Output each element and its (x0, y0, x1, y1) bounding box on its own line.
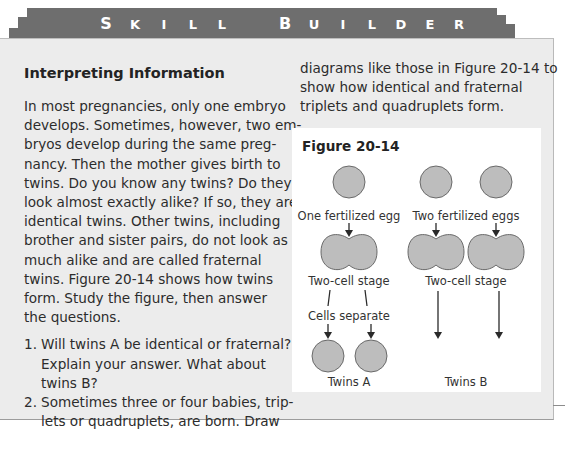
question-list: 1. Will twins A be identical or fraterna… (24, 335, 290, 431)
arrowhead (434, 332, 442, 339)
arrowhead (495, 332, 503, 339)
text-line: much alike and are called fraternal (24, 251, 290, 270)
banner-letter: D (387, 17, 416, 32)
text-line: look almost exactly alike? If so, they a… (24, 193, 290, 212)
label-two-cell-stage-b: Two-cell stage (424, 274, 506, 288)
text-line: diagrams like those in Figure 20-14 to (300, 59, 550, 78)
banner-letter: R (445, 17, 474, 32)
label-one-fertilized-egg: One fertilized egg (298, 209, 401, 223)
section-heading: Interpreting Information (24, 64, 290, 82)
text-line: show how identical and fraternal (300, 78, 550, 97)
question-number: 2. (24, 393, 41, 431)
fertilized-egg-a (333, 166, 365, 198)
text-line: Will twins A be identical or fraternal? (41, 335, 291, 354)
text-line: develops. Sometimes, however, two em- (24, 116, 290, 135)
arrowhead (432, 230, 440, 237)
label-two-cell-stage-a: Two-cell stage (307, 274, 389, 288)
figure-20-14: Figure 20-14 One fertilized egg Two-cell… (292, 128, 541, 392)
text-line: triplets and quadruplets form. (300, 97, 550, 116)
banner-letter: K (121, 17, 150, 32)
left-column: Interpreting Information In most pregnan… (24, 64, 290, 431)
banner-word-builder: B U I L D E R (271, 14, 474, 33)
arrowhead (345, 230, 353, 237)
twin-a-cell-1 (312, 340, 344, 372)
text-line: twins. Figure 20-14 shows how twins (24, 270, 290, 289)
text-line: brother and sister pairs, do not look as (24, 231, 290, 250)
banner-letter: I (329, 17, 358, 32)
text-line: Explain your answer. What about (41, 355, 291, 374)
text-line: form. Study the figure, then answer (24, 289, 290, 308)
banner-letter: L (358, 17, 387, 32)
right-column: diagrams like those in Figure 20-14 to s… (300, 59, 550, 117)
text-line: the questions. (24, 308, 290, 327)
text-line: nancy. Then the mother gives birth to (24, 155, 290, 174)
line (328, 290, 330, 306)
two-cell-stage-b2 (468, 235, 524, 270)
question-text: Will twins A be identical or fraternal? … (41, 335, 291, 393)
two-cell-stage-b1 (408, 235, 464, 270)
text-line: twins B? (41, 374, 291, 393)
arrowhead (367, 332, 375, 339)
text-line: In most pregnancies, only one embryo (24, 97, 290, 116)
line (365, 290, 367, 306)
banner-title: S K I L L B U I L D E R (0, 8, 565, 38)
text-line: bryos develop during the same preg- (24, 135, 290, 154)
question-text: Sometimes three or four babies, trip- le… (41, 393, 294, 431)
text-line: Sometimes three or four babies, trip- (41, 393, 294, 412)
label-cells-separate: Cells separate (308, 309, 390, 323)
intro-paragraph: In most pregnancies, only one embryo dev… (24, 97, 290, 327)
text-line: identical twins. Other twins, including (24, 212, 290, 231)
arrowhead (324, 332, 332, 339)
question-item-1: 1. Will twins A be identical or fraterna… (24, 335, 290, 393)
twin-a-cell-2 (355, 340, 387, 372)
question-number: 1. (24, 335, 41, 393)
text-line: lets or quadruplets, are born. Draw (41, 412, 294, 431)
label-two-fertilized-eggs: Two fertilized eggs (412, 209, 520, 223)
fertilized-egg-b1 (420, 166, 452, 198)
question-item-2: 2. Sometimes three or four babies, trip-… (24, 393, 290, 431)
label-twins-b: Twins B (444, 375, 488, 389)
fertilized-egg-b2 (480, 166, 512, 198)
banner-letter: U (300, 17, 329, 32)
twins-diagram: One fertilized egg Two-cell stage Cells … (292, 128, 541, 392)
text-line: twins. Do you know any twins? Do they (24, 174, 290, 193)
banner-letter: E (416, 17, 445, 32)
arrowhead (492, 230, 500, 237)
banner-letter: B (271, 14, 300, 33)
two-cell-stage-a (321, 235, 377, 270)
banner-letter: I (150, 17, 179, 32)
banner-letter: L (208, 17, 237, 32)
banner-word-skill: S K I L L (92, 14, 237, 33)
banner-letter: L (179, 17, 208, 32)
banner-letter: S (92, 14, 121, 33)
label-twins-a: Twins A (327, 375, 371, 389)
page-edge-rule (553, 405, 565, 406)
